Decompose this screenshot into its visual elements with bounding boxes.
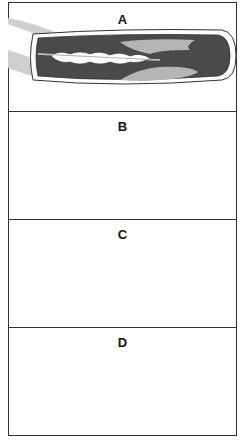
panel-label-d: D bbox=[8, 335, 237, 350]
panel-label-a: A bbox=[8, 12, 237, 27]
angioplasty-diagram bbox=[0, 0, 247, 446]
panel-label-c: C bbox=[8, 227, 237, 242]
panel-label-b: B bbox=[8, 119, 237, 134]
panel-a-artery bbox=[8, 18, 236, 84]
